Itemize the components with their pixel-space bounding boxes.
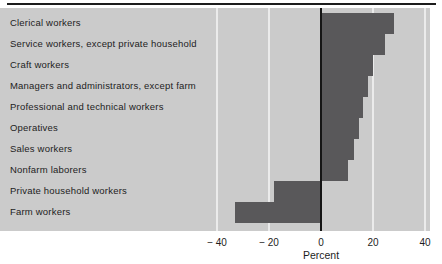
bar xyxy=(321,118,359,139)
bar xyxy=(321,34,385,55)
bar xyxy=(321,76,368,97)
category-label: Clerical workers xyxy=(10,16,81,30)
category-label: Private household workers xyxy=(10,184,127,198)
gridline xyxy=(424,8,426,231)
category-label: Service workers, except private househol… xyxy=(10,37,197,51)
x-tick-label: − 20 xyxy=(245,237,293,249)
percent-change-bar-chart: Clerical workersService workers, except … xyxy=(0,0,442,264)
gridline xyxy=(216,8,218,231)
bar xyxy=(274,181,321,202)
gridline xyxy=(268,8,270,231)
category-label: Operatives xyxy=(10,121,58,135)
x-axis-title: Percent xyxy=(281,249,361,262)
category-label: Professional and technical workers xyxy=(10,100,164,114)
zero-axis-line xyxy=(320,8,322,231)
chart-panel: Clerical workersService workers, except … xyxy=(0,8,430,231)
bar xyxy=(321,139,354,160)
bar xyxy=(321,55,373,76)
x-tick-label: 40 xyxy=(401,237,442,249)
bar xyxy=(321,13,394,34)
x-tick-label: − 40 xyxy=(193,237,241,249)
bar xyxy=(321,97,363,118)
bar xyxy=(235,202,321,223)
x-tick-label: 20 xyxy=(349,237,397,249)
category-label: Farm workers xyxy=(10,205,70,219)
bar xyxy=(321,160,348,181)
category-label: Sales workers xyxy=(10,142,72,156)
category-label: Managers and administrators, except farm xyxy=(10,79,196,93)
category-label: Nonfarm laborers xyxy=(10,163,87,177)
x-tick-label: 0 xyxy=(297,237,345,249)
category-label: Craft workers xyxy=(10,58,69,72)
top-rule xyxy=(7,3,436,5)
